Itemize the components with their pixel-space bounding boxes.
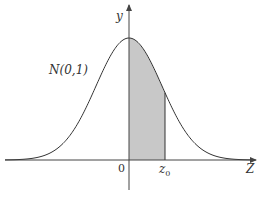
- z0-label: z0: [159, 163, 170, 178]
- x-axis-label: Z: [246, 163, 254, 175]
- y-axis-label: y: [116, 10, 123, 22]
- origin-label: 0: [118, 163, 125, 174]
- shaded-area: [129, 38, 165, 160]
- curve-label-text: N(0,1): [49, 63, 88, 77]
- normal-distribution-figure: y N(0,1) 0 z0 Z: [0, 0, 263, 201]
- z0-label-sub: 0: [165, 169, 170, 178]
- diagram-canvas: [0, 0, 263, 201]
- curve-label: N(0,1): [49, 64, 88, 76]
